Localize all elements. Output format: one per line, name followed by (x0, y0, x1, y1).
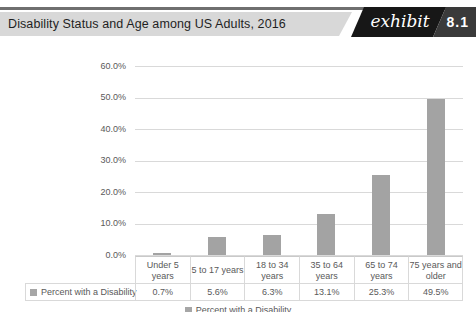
bar (372, 175, 390, 255)
y-tick-label: 20.0% (78, 187, 126, 198)
value-cell: 49.5% (408, 283, 463, 301)
bottom-legend: Percent with a Disability (0, 305, 476, 312)
bar (153, 253, 171, 255)
category-cell: 75 years and older (408, 256, 463, 283)
legend-label: Percent with a Disability (196, 305, 292, 312)
gridline (135, 224, 463, 225)
y-tick-label: 60.0% (78, 61, 126, 72)
category-cell: 5 to 17 years (190, 256, 245, 283)
category-cell: 35 to 64 years (299, 256, 354, 283)
bar (427, 99, 445, 255)
gridline (135, 66, 463, 67)
value-cell: 6.3% (244, 283, 299, 301)
value-cell: 13.1% (299, 283, 354, 301)
series-label: Percent with a Disability (41, 287, 137, 297)
exhibit-number: 8.1 (447, 7, 469, 37)
gridline (135, 161, 463, 162)
bar (317, 214, 335, 255)
gridline (135, 129, 463, 130)
legend-key-icon (30, 289, 37, 296)
legend-key-icon (185, 307, 192, 312)
bar (263, 235, 281, 255)
exhibit-page: Disability Status and Age among US Adult… (0, 0, 476, 312)
y-tick-label: 30.0% (78, 155, 126, 166)
bar-chart: 60.0%50.0%40.0%30.0%20.0%10.0%0.0%Under … (0, 40, 476, 312)
y-tick-label: 50.0% (78, 92, 126, 103)
bar (208, 237, 226, 255)
exhibit-label: exhibit (363, 7, 437, 37)
y-tick-label: 10.0% (78, 218, 126, 229)
value-cell: 25.3% (354, 283, 409, 301)
y-tick-label: 40.0% (78, 124, 126, 135)
exhibit-badge: exhibit 8.1 (339, 7, 476, 37)
y-tick-label: 0.0% (78, 250, 126, 261)
category-cell: 65 to 74 years (354, 256, 409, 283)
page-title: Disability Status and Age among US Adult… (8, 12, 286, 36)
value-cell: 0.7% (135, 283, 190, 301)
value-cell: 5.6% (190, 283, 245, 301)
gridline (135, 98, 463, 99)
gridline (135, 192, 463, 193)
series-label-cell: Percent with a Disability (25, 283, 135, 301)
category-cell: Under 5 years (135, 256, 190, 283)
category-cell: 18 to 34 years (244, 256, 299, 283)
